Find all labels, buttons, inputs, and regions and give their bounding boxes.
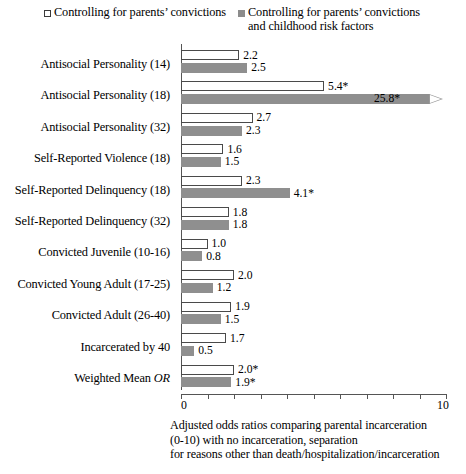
category-label: Convicted Adult (26-40) bbox=[52, 308, 176, 322]
bar-ffffff bbox=[181, 333, 226, 343]
bar-8f8f8f bbox=[181, 314, 221, 324]
bar-value-label: 2.5 bbox=[247, 62, 266, 73]
bar-value-label: 2.0 bbox=[234, 270, 253, 281]
x-axis-tick-label: 10 bbox=[437, 399, 449, 412]
bar-ffffff bbox=[181, 113, 253, 123]
x-axis-tick bbox=[340, 394, 341, 399]
bar-ffffff bbox=[181, 302, 231, 312]
category-label: Weighted Mean OR bbox=[74, 371, 176, 385]
x-axis-tick bbox=[208, 394, 209, 399]
bar-value-label: 1.0 bbox=[208, 238, 227, 249]
bar-value-label: 2.3 bbox=[242, 125, 261, 136]
bar-row: 1.9 bbox=[181, 302, 250, 312]
bar-row: 2.0 bbox=[181, 270, 253, 280]
bar-row: 2.5 bbox=[181, 63, 266, 73]
figure-caption: Adjusted odds ratios comparing parental … bbox=[170, 418, 466, 462]
bar-row: 2.0* bbox=[181, 365, 258, 375]
bar-value-label: 5.4* bbox=[324, 81, 348, 92]
open-square-icon bbox=[44, 10, 51, 17]
category-label-row: Self-Reported Violence (18) bbox=[0, 142, 176, 173]
bar-row: 1.0 bbox=[181, 239, 226, 249]
bar-value-label: 1.5 bbox=[221, 156, 240, 167]
category-label-row: Incarcerated by 40 bbox=[0, 331, 176, 362]
bar-row: 1.7 bbox=[181, 333, 245, 343]
legend-item-filled: Controlling for parents’ convictions and… bbox=[238, 6, 420, 33]
chart-legend: Controlling for parents’ convictions Con… bbox=[0, 4, 466, 40]
chart-figure: Controlling for parents’ convictions Con… bbox=[0, 0, 466, 474]
bar-value-label: 1.9* bbox=[231, 377, 255, 388]
bar-ffffff bbox=[181, 50, 239, 60]
bar-8f8f8f bbox=[181, 346, 194, 356]
legend-label-filled: Controlling for parents’ convictions and… bbox=[248, 6, 420, 33]
category-label: Self-Reported Delinquency (32) bbox=[15, 214, 176, 228]
category-label-row: Weighted Mean OR bbox=[0, 363, 176, 394]
plot-area: Antisocial Personality (14)Antisocial Pe… bbox=[0, 44, 466, 394]
bar-row: 1.8 bbox=[181, 220, 247, 230]
bar-value-label: 25.8* bbox=[374, 93, 400, 104]
bar-value-label: 0.8 bbox=[202, 251, 221, 262]
category-label-row: Convicted Adult (26-40) bbox=[0, 300, 176, 331]
bar-value-label: 1.8 bbox=[229, 207, 248, 218]
bars-container: 2.22.55.4*25.8*2.72.31.61.52.34.1*1.81.8… bbox=[181, 44, 466, 390]
bar-row: 1.6 bbox=[181, 144, 242, 154]
category-label-row: Self-Reported Delinquency (18) bbox=[0, 174, 176, 205]
bar-ffffff bbox=[181, 365, 234, 375]
category-label: Incarcerated by 40 bbox=[81, 340, 177, 354]
bar-row: 0.5 bbox=[181, 346, 213, 356]
bar-8f8f8f bbox=[181, 377, 231, 387]
category-label: Self-Reported Violence (18) bbox=[34, 151, 176, 165]
x-axis-tick-label: 0 bbox=[181, 399, 187, 412]
category-label: Convicted Young Adult (17-25) bbox=[17, 277, 176, 291]
bar-row: 1.2 bbox=[181, 283, 231, 293]
bar-row: 1.5 bbox=[181, 157, 239, 167]
x-axis-tick bbox=[367, 394, 368, 399]
bar-8f8f8f bbox=[181, 188, 290, 198]
category-label-row: Antisocial Personality (18) bbox=[0, 79, 176, 110]
bar-row: 5.4* bbox=[181, 81, 348, 91]
bar-row: 4.1* bbox=[181, 188, 314, 198]
bar-value-label: 1.5 bbox=[221, 314, 240, 325]
x-axis-tick bbox=[314, 394, 315, 399]
bar-8f8f8f bbox=[181, 251, 202, 261]
bar-row: 2.7 bbox=[181, 113, 271, 123]
bar-row: 2.3 bbox=[181, 176, 260, 186]
category-label-row: Antisocial Personality (14) bbox=[0, 48, 176, 79]
bar-value-label: 1.7 bbox=[226, 333, 245, 344]
x-axis-tick bbox=[420, 394, 421, 399]
category-label-row: Convicted Juvenile (10-16) bbox=[0, 237, 176, 268]
legend-item-open: Controlling for parents’ convictions bbox=[44, 6, 226, 20]
bar-ffffff bbox=[181, 270, 234, 280]
bar-row: 1.5 bbox=[181, 314, 239, 324]
category-label: Antisocial Personality (14) bbox=[41, 57, 176, 71]
x-axis-tick bbox=[261, 394, 262, 399]
bar-ffffff bbox=[181, 207, 229, 217]
category-label-row: Self-Reported Delinquency (32) bbox=[0, 205, 176, 236]
bar-8f8f8f bbox=[181, 126, 242, 136]
category-label-row: Antisocial Personality (32) bbox=[0, 111, 176, 142]
bar-value-label: 1.8 bbox=[229, 219, 248, 230]
bar-ffffff bbox=[181, 239, 208, 249]
legend-label-open: Controlling for parents’ convictions bbox=[54, 6, 226, 20]
bar-8f8f8f bbox=[181, 63, 247, 73]
category-label: Antisocial Personality (18) bbox=[41, 88, 176, 102]
axis-break-arrow-icon bbox=[429, 94, 443, 104]
bar-value-label: 2.7 bbox=[253, 112, 272, 123]
bar-ffffff bbox=[181, 176, 242, 186]
bar-8f8f8f bbox=[181, 220, 229, 230]
bar-row: 25.8* bbox=[181, 94, 443, 104]
bar-row: 2.3 bbox=[181, 126, 260, 136]
bar-value-label: 2.0* bbox=[234, 364, 258, 375]
bar-8f8f8f bbox=[181, 283, 213, 293]
bar-value-label: 2.3 bbox=[242, 175, 261, 186]
bar-value-label: 2.2 bbox=[239, 50, 258, 61]
category-label: Convicted Juvenile (10-16) bbox=[38, 245, 176, 259]
bar-ffffff bbox=[181, 81, 324, 91]
x-axis-tick bbox=[393, 394, 394, 399]
bar-value-label: 4.1* bbox=[290, 188, 314, 199]
x-axis-tick bbox=[287, 394, 288, 399]
x-axis-tick bbox=[234, 394, 235, 399]
bar-value-label: 0.5 bbox=[194, 345, 213, 356]
bar-8f8f8f bbox=[181, 157, 221, 167]
bar-value-label: 1.6 bbox=[223, 144, 242, 155]
category-label: Self-Reported Delinquency (18) bbox=[15, 183, 176, 197]
